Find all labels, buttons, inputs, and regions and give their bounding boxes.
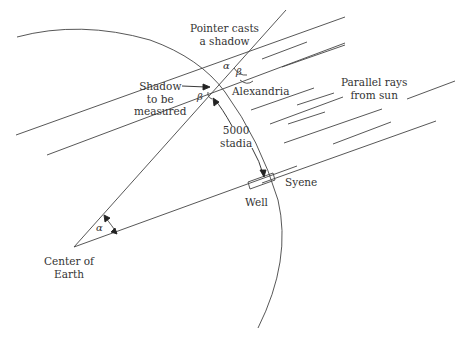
label-rays-line1: Parallel rays xyxy=(341,76,407,89)
label-pointer-line2: a shadow xyxy=(190,35,259,48)
label-well: Well xyxy=(245,196,268,209)
sun-ray xyxy=(297,93,334,105)
sun-ray xyxy=(288,112,325,124)
label-pointer-line1: Pointer casts xyxy=(190,22,259,35)
label-pointer: Pointer casts a shadow xyxy=(190,22,259,47)
sun-ray xyxy=(407,81,455,99)
earth-surface-arc xyxy=(17,29,282,328)
label-rays-line2: from sun xyxy=(341,89,407,102)
symbol-alpha-center: α xyxy=(96,222,103,233)
label-distance: 5000 stadia xyxy=(220,124,252,149)
arrowhead-icon xyxy=(203,84,210,90)
diagram-canvas xyxy=(0,0,469,338)
sun-ray xyxy=(270,97,343,124)
label-shadow: Shadow to be measured xyxy=(134,80,187,118)
sun-ray xyxy=(284,109,382,143)
arrowhead-icon xyxy=(104,215,110,222)
label-center-earth: Center of Earth xyxy=(44,255,94,280)
arrow-distance-upper xyxy=(215,100,232,126)
label-center-line2: Earth xyxy=(44,268,94,281)
label-distance-value: 5000 xyxy=(220,124,252,137)
sun-ray-alexandria xyxy=(47,43,345,155)
sun-ray-syene xyxy=(262,121,436,183)
label-syene: Syene xyxy=(285,176,317,189)
symbol-beta-bottom: β xyxy=(197,91,203,102)
label-shadow-line1: Shadow xyxy=(134,80,187,93)
label-parallel-rays: Parallel rays from sun xyxy=(341,76,407,101)
label-center-line1: Center of xyxy=(44,255,94,268)
label-shadow-line3: measured xyxy=(134,105,187,118)
sun-ray xyxy=(333,122,391,144)
label-distance-unit: stadia xyxy=(220,137,252,150)
arrowhead-icon xyxy=(213,98,219,106)
label-shadow-line2: to be xyxy=(134,93,187,106)
label-alexandria: Alexandria xyxy=(232,85,289,98)
symbol-beta-top: β xyxy=(236,66,242,77)
symbol-alpha-top: α xyxy=(223,60,230,71)
